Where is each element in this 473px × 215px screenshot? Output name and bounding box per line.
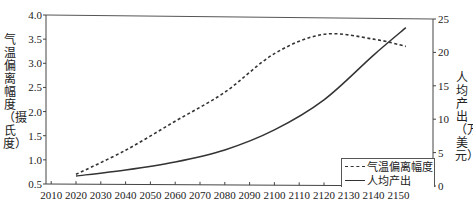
- svg-text:10: 10: [438, 113, 450, 125]
- svg-text:1.0: 1.0: [28, 154, 42, 166]
- svg-text:2070: 2070: [189, 189, 212, 201]
- svg-text:2050: 2050: [139, 189, 162, 201]
- svg-text:2060: 2060: [164, 189, 187, 201]
- svg-text:2080: 2080: [214, 189, 237, 201]
- svg-text:2040: 2040: [115, 189, 138, 201]
- legend-item-temperature: 气温偏离幅度: [342, 159, 434, 173]
- legend-label-output: 人均产出: [367, 172, 411, 188]
- svg-text:2030: 2030: [90, 189, 113, 201]
- svg-text:0.5: 0.5: [28, 178, 42, 190]
- svg-text:2100: 2100: [263, 189, 286, 201]
- svg-text:2110: 2110: [288, 189, 310, 201]
- solid-line-swatch-icon: [345, 180, 365, 181]
- svg-text:2020: 2020: [65, 189, 88, 201]
- svg-text:2150: 2150: [387, 189, 410, 201]
- svg-text:2120: 2120: [313, 189, 336, 201]
- svg-text:3.5: 3.5: [28, 33, 42, 45]
- right-axis-title: 人均产出（万美元）: [455, 72, 468, 163]
- svg-text:2140: 2140: [363, 189, 386, 201]
- svg-text:0: 0: [438, 180, 444, 192]
- svg-text:2130: 2130: [338, 189, 361, 201]
- per-capita-output-line: [76, 28, 406, 176]
- svg-text:2.5: 2.5: [28, 81, 42, 93]
- legend-item-output: 人均产出: [342, 173, 434, 187]
- svg-text:1.5: 1.5: [28, 130, 42, 142]
- svg-text:2010: 2010: [40, 189, 63, 201]
- left-y-axis: 0.51.01.52.02.53.03.54.0: [28, 9, 46, 190]
- dashed-line-swatch-icon: [345, 166, 365, 167]
- svg-text:4.0: 4.0: [28, 9, 42, 21]
- chart-legend: 气温偏离幅度 人均产出: [341, 158, 435, 187]
- left-axis-title: 气温偏离幅度（摄氏度）: [3, 34, 16, 151]
- svg-text:2090: 2090: [239, 189, 262, 201]
- svg-text:2.0: 2.0: [28, 106, 42, 118]
- svg-text:25: 25: [438, 13, 450, 25]
- right-y-axis: 0510152025: [433, 13, 450, 192]
- svg-text:3.0: 3.0: [28, 57, 42, 69]
- svg-text:20: 20: [438, 46, 450, 58]
- svg-text:15: 15: [438, 80, 450, 92]
- temperature-deviation-line: [76, 34, 406, 175]
- svg-text:5: 5: [438, 147, 444, 159]
